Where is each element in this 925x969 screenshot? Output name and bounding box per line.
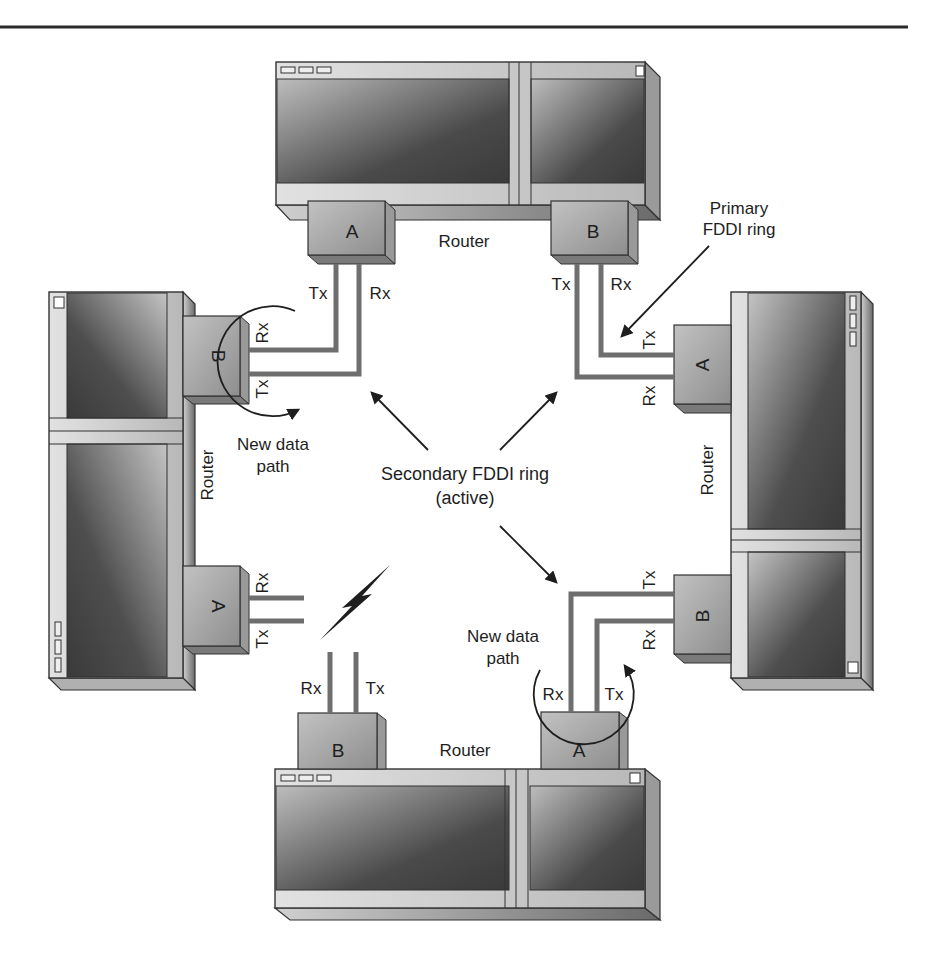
tx-label: Tx (253, 379, 272, 398)
secondary-ring-annotation: Secondary FDDI ring (active) (372, 393, 556, 582)
annotation-text: FDDI ring (703, 220, 776, 239)
router-right: A B Router (674, 292, 873, 690)
port-label: B (692, 610, 713, 623)
annotation-text: path (486, 649, 519, 668)
port-module-b: B (298, 713, 386, 769)
tx-label: Tx (253, 629, 272, 648)
port-module-a: A (541, 712, 628, 769)
rx-label: Rx (640, 629, 659, 650)
router-bottom: B A Router (275, 712, 660, 920)
rx-label: Rx (611, 275, 632, 294)
fiber-top-a-rx (249, 264, 359, 374)
tx-label: Tx (366, 679, 385, 698)
annotation-text: (active) (435, 488, 494, 508)
annotation-text: path (256, 457, 289, 476)
port-label: B (332, 740, 345, 761)
annotation-text: Primary (710, 199, 769, 218)
arrow-icon (500, 393, 556, 450)
router-label: Router (439, 741, 490, 760)
port-label: B (587, 221, 600, 242)
annotation-text: New data (237, 435, 309, 454)
status-leds (55, 622, 61, 672)
router-label: Router (438, 232, 489, 251)
port-module-b: B (551, 201, 638, 264)
annotation-text: New data (467, 627, 539, 646)
port-label: A (208, 600, 229, 613)
tx-label: Tx (605, 685, 624, 704)
port-module-b: B (674, 575, 731, 663)
rx-label: Rx (301, 679, 322, 698)
port-module-a: A (183, 566, 249, 654)
rx-label: Rx (543, 685, 564, 704)
lightning-bolt-icon (320, 565, 390, 640)
router-label: Router (198, 449, 217, 500)
router-label: Router (698, 444, 717, 495)
rx-label: Rx (370, 284, 391, 303)
tx-label: Tx (309, 284, 328, 303)
port-module-a: A (674, 325, 731, 413)
annotation-text: Secondary FDDI ring (381, 464, 549, 484)
rx-label: Rx (640, 385, 659, 406)
rx-label: Rx (253, 572, 272, 593)
status-leds (281, 775, 331, 781)
port-module-a: A (308, 201, 395, 264)
router-top: A B Router (276, 62, 660, 264)
rx-label: Rx (253, 322, 272, 343)
status-leds (281, 67, 331, 73)
tx-label: Tx (640, 570, 659, 589)
port-module-b: B (183, 316, 249, 404)
arrow-icon (372, 393, 428, 450)
tx-label: Tx (640, 330, 659, 349)
status-leds (850, 296, 856, 346)
arrow-icon (500, 526, 556, 582)
port-label: A (692, 358, 713, 371)
port-label: A (346, 221, 359, 242)
fddi-wrap-diagram: A B Router A (0, 0, 925, 969)
tx-label: Tx (552, 275, 571, 294)
